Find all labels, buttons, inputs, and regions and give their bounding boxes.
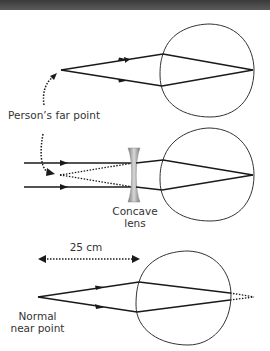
panel-far-point xyxy=(43,24,254,117)
concave-lens-label-1: Concave xyxy=(110,205,160,217)
eye-outline xyxy=(160,128,254,221)
distance-label: 25 cm xyxy=(66,241,106,253)
near-point-label-1: Normal xyxy=(10,310,65,322)
far-point-label: Person’s far point xyxy=(8,109,100,121)
near-point-label-2: near point xyxy=(10,322,65,334)
concave-lens-label-2: lens xyxy=(110,217,160,229)
far-point-pointer xyxy=(43,77,53,105)
optics-diagram xyxy=(0,0,270,351)
panel-near-point xyxy=(38,251,254,345)
eye-outline xyxy=(136,251,231,345)
far-point-pointer xyxy=(41,134,47,172)
eye-outline xyxy=(160,24,254,117)
concave-lens xyxy=(128,148,140,202)
